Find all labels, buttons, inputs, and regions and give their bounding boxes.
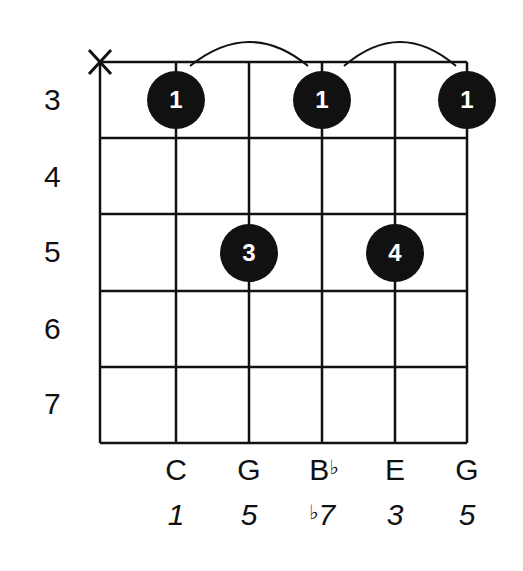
fret-label-6: 6 xyxy=(44,314,74,344)
note-label: C xyxy=(156,452,196,485)
fret-label-7: 7 xyxy=(44,389,74,419)
finger-dot: 1 xyxy=(147,71,205,129)
finger-dot: 3 xyxy=(220,224,278,282)
finger-dot: 4 xyxy=(366,224,424,282)
interval-label: ♭7 xyxy=(297,497,347,530)
chord-diagram: 3 4 5 6 7 1 1 1 3 4 C G B♭ E G 1 5 ♭7 3 … xyxy=(0,0,523,571)
finger-dot: 1 xyxy=(293,71,351,129)
finger-dot: 1 xyxy=(438,71,496,129)
note-label: B♭ xyxy=(304,452,344,485)
interval-label: 5 xyxy=(442,497,492,530)
note-label: E xyxy=(375,452,415,485)
interval-label: 5 xyxy=(224,497,274,530)
fret-label-5: 5 xyxy=(44,237,74,267)
note-label: G xyxy=(229,452,269,485)
interval-label: 1 xyxy=(151,497,201,530)
note-label: G xyxy=(447,452,487,485)
fret-label-3: 3 xyxy=(44,85,74,115)
interval-label: 3 xyxy=(370,497,420,530)
fret-label-4: 4 xyxy=(44,162,74,192)
